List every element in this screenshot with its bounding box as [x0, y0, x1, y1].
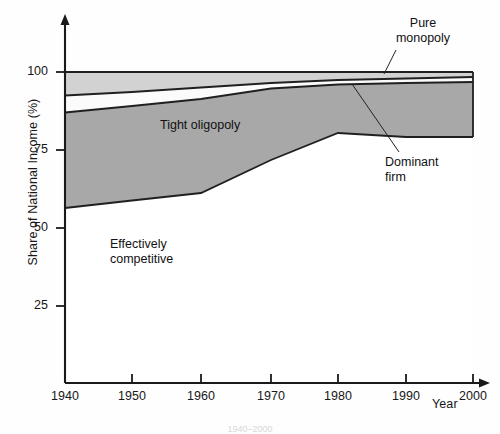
x-axis-arrowhead: [479, 379, 490, 388]
chart-figure: Share of National Income (%) Year 100 75…: [0, 0, 500, 434]
x-tick-label-1960: 1960: [177, 389, 225, 403]
x-tick-label-1990: 1990: [382, 389, 430, 403]
annotation-pure-monopoly-line1: Pure: [410, 16, 436, 30]
y-axis-arrowhead: [61, 14, 70, 25]
annotation-dominant-firm-line2: firm: [385, 170, 406, 184]
annotation-tight-oligopoly: Tight oligopoly: [160, 118, 240, 133]
y-tick-label-50: 50: [14, 220, 48, 234]
x-tick-label-1980: 1980: [314, 389, 362, 403]
y-tick-label-75: 75: [14, 142, 48, 156]
annotation-effectively-competitive-line1: Effectively: [110, 237, 167, 251]
annotation-effectively-competitive: Effectively competitive: [110, 237, 173, 267]
y-tick-label-100: 100: [14, 64, 48, 78]
x-tick-label-1940: 1940: [41, 389, 89, 403]
x-tick-label-1950: 1950: [108, 389, 156, 403]
annotation-effectively-competitive-line2: competitive: [110, 252, 173, 266]
y-axis-title: Share of National Income (%): [26, 87, 40, 277]
y-tick-label-25: 25: [14, 298, 48, 312]
annotation-dominant-firm-line1: Dominant: [385, 155, 439, 169]
pure-monopoly-leader-line: [384, 50, 396, 74]
area-chart-canvas: [0, 0, 500, 434]
annotation-pure-monopoly: Pure monopoly: [383, 16, 463, 46]
figure-caption: 1940–2000: [0, 424, 500, 434]
x-tick-label-1970: 1970: [247, 389, 295, 403]
annotation-dominant-firm: Dominant firm: [385, 155, 471, 185]
x-tick-label-2000: 2000: [449, 389, 497, 403]
annotation-pure-monopoly-line2: monopoly: [396, 31, 450, 45]
